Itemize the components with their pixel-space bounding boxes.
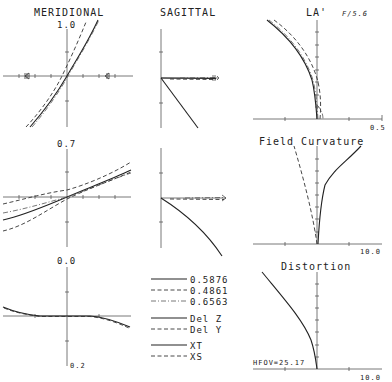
meridional-title: MERIDIONAL — [34, 7, 104, 18]
dist-scale-label: 10.0 — [360, 374, 381, 382]
legend-label: 0.5876 — [190, 275, 229, 285]
field-00-label: 0.0 — [57, 256, 76, 266]
sagittal-plot-1 — [159, 29, 219, 128]
field-curvature-plot: 10.0 — [253, 146, 382, 256]
fnumber-label: F/5.6 — [342, 10, 368, 18]
field-1-label: 1.0 — [57, 20, 76, 30]
legend-label: 0.4861 — [190, 286, 229, 296]
field-07-label: 0.7 — [57, 139, 76, 149]
fc-scale-label: 10.0 — [360, 248, 381, 256]
meridional-plot-00: 0.2 — [3, 267, 131, 370]
distortion-title: Distortion — [281, 261, 351, 272]
meridional-plot-1 — [3, 20, 133, 127]
legend-label: Del Y — [190, 325, 222, 335]
legend-label: XT — [190, 341, 203, 351]
ray-scale-label: 0.2 — [70, 362, 86, 370]
legend-label: XS — [190, 352, 203, 362]
meridional-plot-07 — [3, 149, 131, 247]
legend-label: 0.6563 — [190, 297, 229, 307]
la-scale-label: 0.5 — [370, 124, 386, 132]
sagittal-title: SAGITTAL — [160, 7, 216, 18]
distortion-plot: HFOV=25.17 10.0 — [253, 272, 382, 382]
sagittal-plot-07 — [159, 148, 226, 256]
field-curvature-title: Field Curvature — [259, 136, 364, 147]
legend: 0.5876 0.4861 0.6563 Del Z Del Y XT XS — [151, 275, 229, 362]
legend-label: Del Z — [190, 314, 222, 324]
aberration-plots: MERIDIONAL SAGITTAL 1.0 0.7 — [0, 0, 392, 382]
la-title: LA' — [306, 7, 327, 18]
longitudinal-aberration-plot: 0.5 — [253, 20, 386, 132]
hfov-label: HFOV=25.17 — [253, 359, 305, 367]
